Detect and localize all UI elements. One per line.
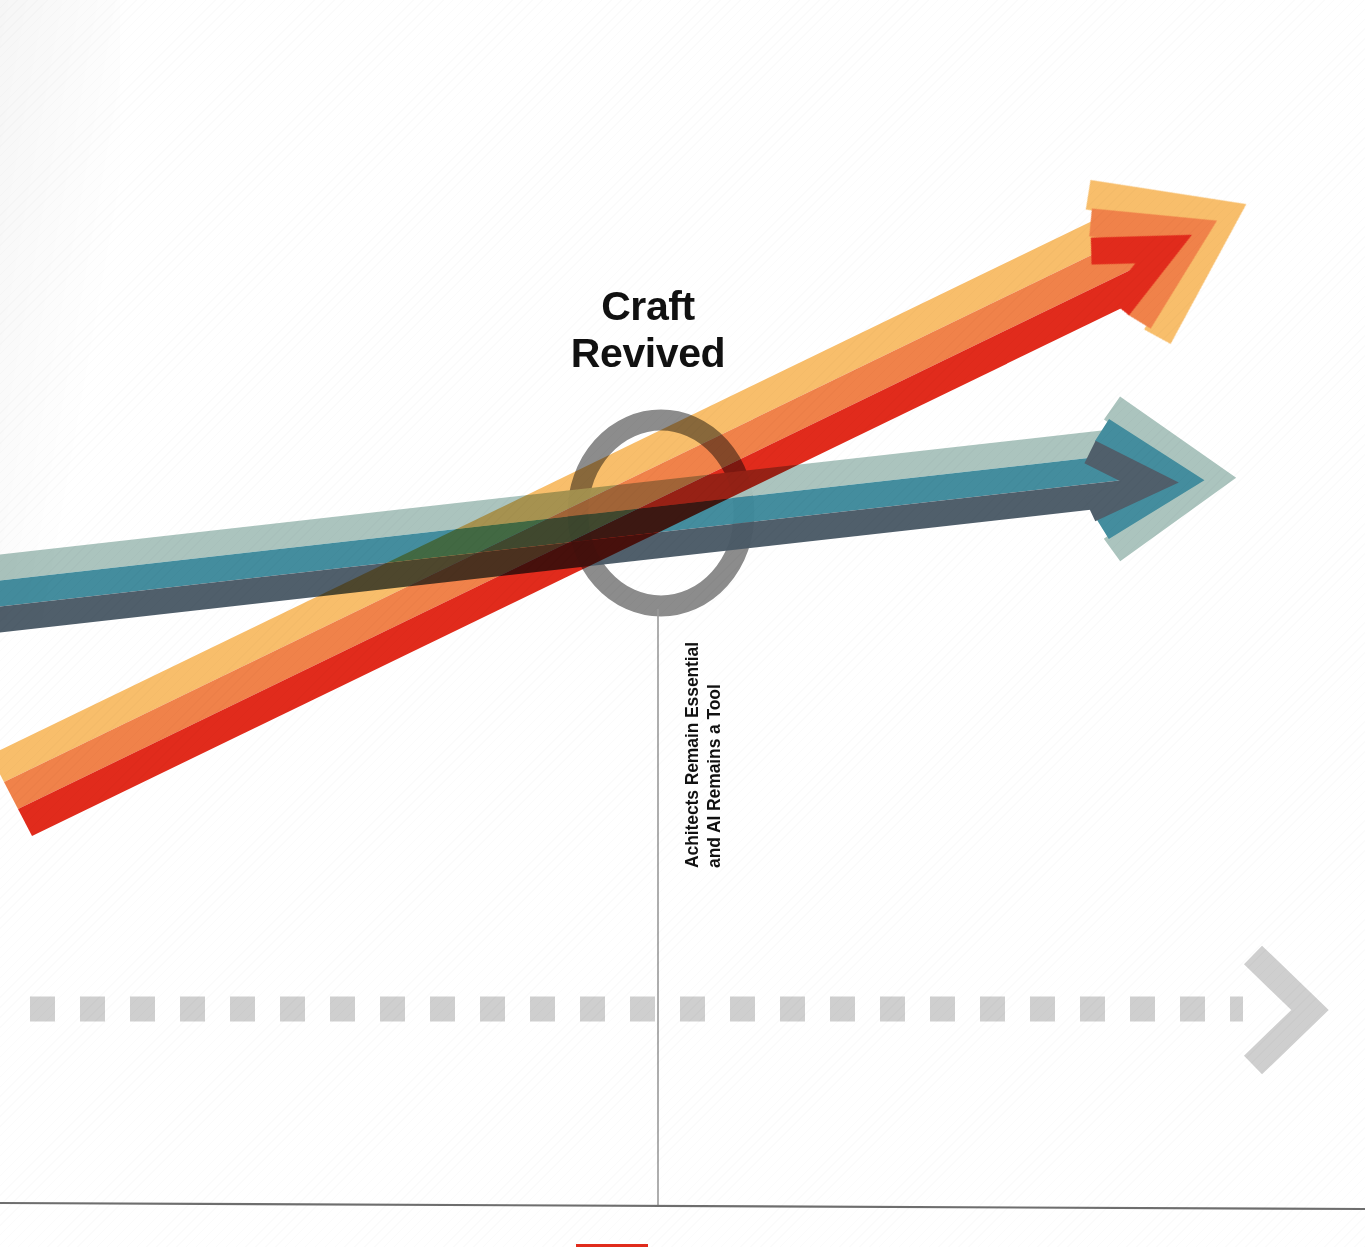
vertical-divider-label-line-1: Achitects Remain Essential — [681, 642, 703, 868]
baseline-dashed-arrow — [30, 955, 1310, 1065]
diagram-canvas: Craft Revived Achitects Remain Essential… — [0, 0, 1365, 1247]
page-title-line-1: Craft — [498, 283, 798, 330]
diagram-graphics-layer — [0, 0, 1365, 1247]
x-axis-line — [0, 1203, 1365, 1209]
vertical-divider-label: Achitects Remain Essential and AI Remain… — [681, 642, 725, 868]
vertical-divider-label-line-2: and AI Remains a Tool — [703, 642, 725, 868]
baseline-arrowhead-icon — [1253, 955, 1310, 1065]
page-title-line-2: Revived — [498, 330, 798, 377]
page-title: Craft Revived — [498, 283, 798, 377]
